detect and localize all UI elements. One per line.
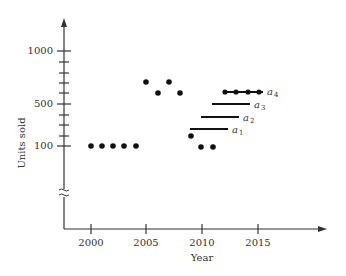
x-axis-title: Year (190, 252, 214, 263)
x-tick-2005: 2005 (133, 237, 158, 248)
axis-break-icon (59, 189, 69, 196)
x-tick-2015: 2015 (245, 237, 270, 248)
y-axis (57, 18, 71, 229)
y-axis-arrow-icon (61, 18, 67, 27)
y-tick-500: 500 (34, 98, 53, 109)
data-point (88, 143, 94, 149)
label-a4: a4 (267, 86, 279, 99)
label-a3: a3 (254, 99, 265, 112)
data-point (198, 144, 204, 150)
y-axis-title: Units sold (16, 117, 27, 169)
data-point (188, 133, 194, 139)
data-point (166, 79, 172, 85)
label-a2: a2 (243, 112, 254, 125)
data-point (210, 144, 216, 150)
y-tick-100: 100 (34, 140, 53, 151)
x-axis-arrow-icon (318, 226, 327, 232)
x-axis (64, 224, 327, 234)
data-point (121, 143, 127, 149)
data-point (155, 90, 161, 96)
x-tick-2010: 2010 (189, 237, 214, 248)
data-point (99, 143, 105, 149)
label-a1: a1 (232, 124, 243, 137)
units-sold-chart: 1000 500 100 Units sold 2000 2005 2010 2… (0, 0, 346, 276)
data-point (110, 143, 116, 149)
data-point (133, 143, 139, 149)
x-tick-2000: 2000 (78, 237, 103, 248)
data-point (177, 90, 183, 96)
data-point (143, 79, 149, 85)
data-points (88, 79, 216, 150)
y-tick-1000: 1000 (28, 45, 53, 56)
